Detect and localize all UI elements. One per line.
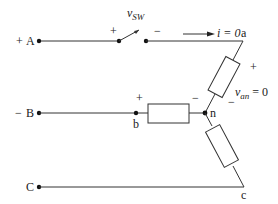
three-phase-wye-circuit: + A + − vSW i = 0 a + − van = 0 − B (0, 0, 278, 204)
resistor-bn-body (148, 104, 189, 123)
terminal-b-polarity: − (15, 106, 22, 120)
terminal-a-dot (37, 39, 41, 43)
resistor-bn-plus: + (136, 91, 143, 105)
terminal-c-label: C (26, 180, 34, 194)
terminal-a-polarity: + (16, 34, 23, 48)
lead-c (233, 166, 244, 187)
resistor-an: + − van = 0 (205, 41, 268, 113)
node-a-label: a (241, 26, 247, 40)
terminal-a-label: A (26, 34, 35, 48)
resistor-an-voltage-label: van = 0 (235, 85, 268, 101)
node-c-label: c (241, 188, 246, 202)
switch-voltage-label: vSW (127, 6, 146, 22)
resistor-an-plus: + (250, 60, 257, 74)
node-b-label: b (133, 117, 139, 131)
line-a: + A (16, 34, 119, 48)
node-b-dot (134, 111, 138, 115)
resistor-cn-body (206, 125, 239, 168)
resistor-bn: + − (136, 91, 205, 123)
current-arrow: i = 0 (183, 26, 240, 40)
current-label: i = 0 (217, 26, 240, 40)
resistor-bn-minus: − (192, 91, 199, 105)
arrow-right-icon (207, 32, 215, 37)
switch: + − vSW (110, 6, 161, 43)
line-c: C c (26, 180, 246, 202)
switch-minus-sign: − (154, 24, 161, 38)
switch-plus-sign: + (110, 24, 117, 38)
node-n-label: n (210, 106, 216, 120)
switch-blade-tip-icon (134, 30, 139, 34)
lead-a (233, 41, 243, 60)
terminal-b-label: B (26, 106, 34, 120)
line-b: − B b (15, 106, 148, 131)
resistor-cn (205, 113, 244, 187)
resistor-an-minus: − (228, 95, 235, 109)
